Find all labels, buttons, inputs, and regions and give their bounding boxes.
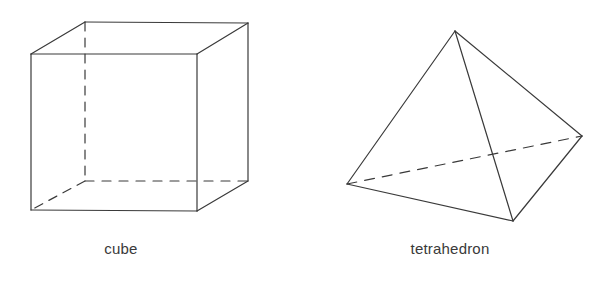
diagram-canvas: cube tetrahedron	[0, 0, 609, 288]
tetra-edge-left-front	[347, 184, 513, 221]
tetra-edge-front-right	[513, 136, 582, 221]
tetra-edge-hidden-left-right	[347, 136, 582, 184]
cube-figure	[31, 22, 248, 211]
cube-edge-connect-top-left	[31, 22, 85, 54]
tetrahedron-figure	[347, 31, 582, 221]
tetrahedron-caption: tetrahedron	[330, 240, 570, 257]
cube-caption: cube	[0, 240, 242, 257]
cube-edge-connect-top-right	[197, 23, 248, 54]
tetra-edge-apex-front	[455, 31, 513, 221]
cube-edge-back-top	[85, 22, 248, 23]
cube-edge-front-bottom	[31, 210, 197, 211]
cube-edge-connect-bottom-right	[197, 181, 248, 211]
tetra-edge-apex-right	[455, 31, 582, 136]
cube-edge-hidden-connect-bottom-left	[31, 181, 85, 210]
tetra-edge-apex-left	[347, 31, 455, 184]
